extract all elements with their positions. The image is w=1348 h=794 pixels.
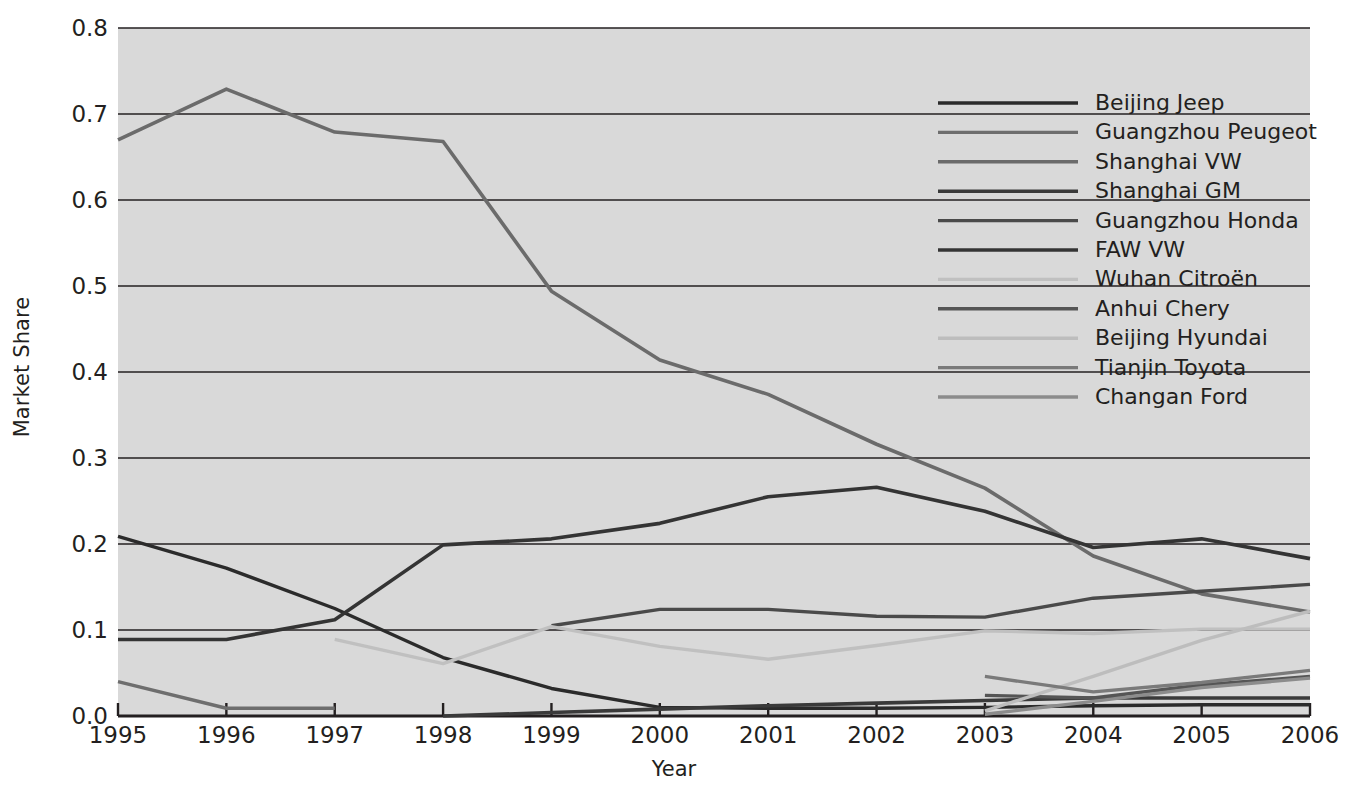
legend-label: Changan Ford	[1095, 384, 1248, 409]
market-share-line-chart: Market Share Year 0.00.10.20.30.40.50.60…	[0, 0, 1348, 794]
legend-label: Tianjin Toyota	[1094, 355, 1246, 380]
legend-label: Beijing Jeep	[1095, 90, 1224, 115]
legend-label: Beijing Hyundai	[1095, 325, 1268, 350]
legend-label: Guangzhou Honda	[1095, 208, 1299, 233]
legend-label: FAW VW	[1095, 237, 1185, 262]
legend-label: Anhui Chery	[1095, 296, 1230, 321]
legend-label: Wuhan Citroën	[1095, 266, 1258, 291]
legend-label: Shanghai GM	[1095, 178, 1241, 203]
plot-area: Beijing JeepGuangzhou PeugeotShanghai VW…	[0, 0, 1348, 794]
legend-label: Guangzhou Peugeot	[1095, 119, 1317, 144]
legend-label: Shanghai VW	[1095, 149, 1242, 174]
